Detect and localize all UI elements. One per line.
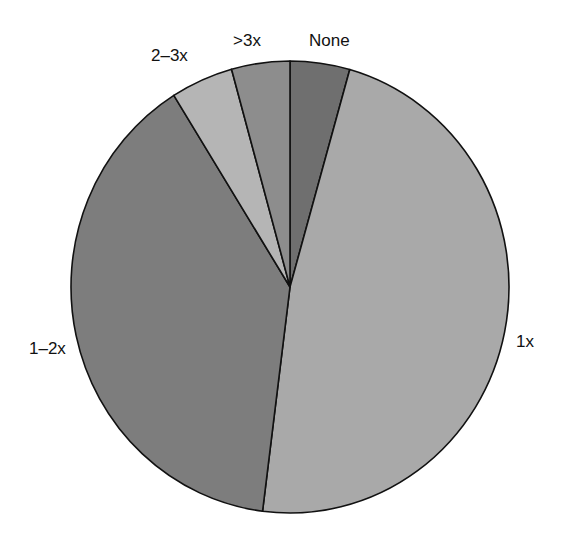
pie-slices	[71, 61, 509, 513]
label-2-3x: 2–3x	[151, 46, 188, 66]
label-none: None	[309, 31, 350, 51]
label-1-2x: 1–2x	[29, 339, 66, 359]
label-1x: 1x	[516, 332, 534, 352]
label-gt-3x: >3x	[233, 31, 261, 51]
pie-chart	[0, 0, 565, 541]
